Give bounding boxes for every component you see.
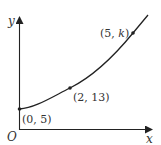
point-2-13 <box>68 86 72 90</box>
function-graph: y x O (0, 5) (2, 13) (5, k) <box>0 0 161 145</box>
point-0-5 <box>18 107 22 111</box>
point-label-5-k-suffix: ) <box>125 27 129 40</box>
point-label-0-5: (0, 5) <box>22 113 52 126</box>
point-label-5-k-prefix: (5, <box>100 27 118 40</box>
y-axis-label: y <box>7 14 15 28</box>
point-5-k <box>131 31 135 35</box>
x-axis-label: x <box>146 132 153 145</box>
point-label-2-13: (2, 13) <box>73 91 110 104</box>
origin-label: O <box>7 130 17 144</box>
point-label-5-k: (5, k) <box>100 27 129 40</box>
